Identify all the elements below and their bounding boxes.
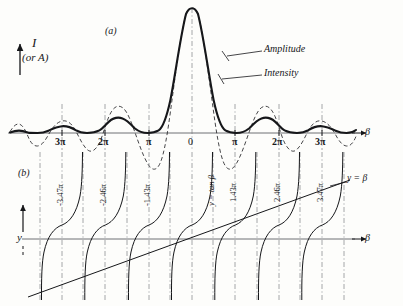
panel-a-tick-pi: π (232, 137, 237, 147)
y-equals-beta-label: y = β (347, 174, 367, 184)
root-label-minus-3-47pi: -3.47π (56, 184, 65, 206)
panel-a-x-axis-label: β (365, 127, 370, 137)
figure-vector-layer (0, 0, 403, 306)
intensity-label: Intensity (264, 68, 298, 78)
intensity-curve (10, 8, 356, 133)
root-label-minus-1-43pi: -1.43π (143, 184, 152, 206)
panel-b-y-axis-label: y (17, 232, 22, 243)
panel-b-label: (b) (18, 168, 30, 178)
panel-a-tick-3pi: 3π (315, 137, 325, 147)
panel-b-group (22, 152, 366, 300)
panel-a-label: (a) (105, 26, 117, 36)
root-label-2-46pi: 2.46π (273, 183, 282, 202)
panel-b-gridlines (40, 152, 344, 300)
panel-a-tick-2pi: 2π (272, 137, 282, 147)
root-label-3-47pi: 3.47π (316, 183, 325, 202)
figure-canvas: (a) I (or A) β 3π 2π π 0 π 2π 3π Amplitu… (0, 0, 403, 306)
panel-a-tick-minus-2pi: 2π (98, 137, 108, 147)
panel-a-tick-minus-pi: π (146, 137, 151, 147)
panel-b-x-axis-label: β (365, 233, 370, 243)
panel-a-y-axis-sublabel: (or A) (22, 52, 48, 63)
panel-a-tick-minus-3pi: 3π (55, 137, 65, 147)
annotation-leaders (218, 51, 262, 84)
root-label-minus-2-46pi: -2.46π (99, 184, 108, 206)
y-equals-tan-beta-label: y = tan β (207, 175, 216, 206)
root-label-1-43pi: 1.43π (229, 183, 238, 202)
panel-a-y-axis-label: I (32, 36, 36, 49)
amplitude-label: Amplitude (264, 44, 305, 54)
panel-a-tick-origin: 0 (188, 137, 193, 147)
